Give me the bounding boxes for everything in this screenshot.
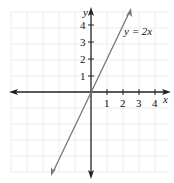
graph: 1 2 3 4 1 2 3 4 x y y = 2x [0,0,174,183]
y-tick-3: 3 [80,36,86,48]
x-tick-1: 1 [104,97,110,109]
x-tick-2: 2 [120,97,126,109]
x-tick-4: 4 [152,97,158,109]
y-tick-1: 1 [80,70,86,82]
y-tick-4: 4 [80,19,86,31]
x-axis-label: x [162,93,168,105]
equation-label: y = 2x [123,25,152,37]
y-tick-2: 2 [80,53,86,65]
x-tick-3: 3 [136,97,142,109]
coordinate-plane: 1 2 3 4 1 2 3 4 x y y = 2x [0,0,174,183]
y-axis-label: y [82,6,88,18]
